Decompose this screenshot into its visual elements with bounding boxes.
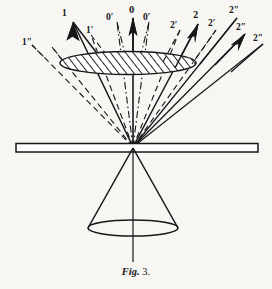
ray-label-0-prime-left: 0′ [106,13,113,23]
ray-label-2-double-prime-b: 2″ [236,23,246,33]
figure-3-container: 1″ 1 1′ 0′ 0 0′ 2′ 2 2′ 2″ 2″ 2″ Fig. 3. [0,0,272,289]
lower-cone [88,148,178,262]
ray-1 [67,22,134,147]
ray-label-0: 0 [129,5,134,16]
ray-label-1: 1 [62,9,67,19]
horizontal-plate [16,144,258,153]
ray-label-0-prime-right: 0′ [143,13,150,23]
figure-caption-prefix: Fig. [122,266,140,277]
ray-label-2-double-prime-c: 2″ [253,34,263,44]
ray-label-2-prime-left: 2′ [170,21,177,31]
ray-label-1-double-prime: 1″ [22,38,32,48]
figure-caption-number: 3. [142,266,150,277]
ray-0-prime-left [117,22,133,147]
figure-diagram-svg [0,0,272,289]
ray-label-1-prime: 1′ [86,26,93,36]
upper-ray-bundle [32,17,263,147]
ray-label-2-double-prime-a: 2″ [229,6,239,16]
ray-label-2-prime-right: 2′ [208,19,215,29]
ray-label-2: 2 [193,10,198,21]
figure-caption: Fig. 3. [0,267,272,278]
